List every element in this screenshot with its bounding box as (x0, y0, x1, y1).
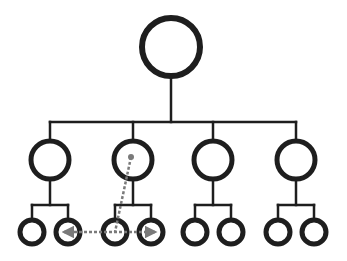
node-branch-1 (31, 141, 69, 179)
node-branch-3 (194, 141, 232, 179)
node-leaf-4b (302, 220, 326, 244)
node-leaf-1a (20, 220, 44, 244)
node-root (142, 18, 200, 76)
node-leaf-4a (266, 220, 290, 244)
node-leaf-3b (219, 220, 243, 244)
connector-lines (32, 79, 314, 217)
org-chart-diagram (0, 0, 347, 261)
node-branch-2 (114, 141, 152, 179)
node-leaf-3a (183, 220, 207, 244)
node-branch-4 (277, 141, 315, 179)
nodes (20, 18, 326, 244)
